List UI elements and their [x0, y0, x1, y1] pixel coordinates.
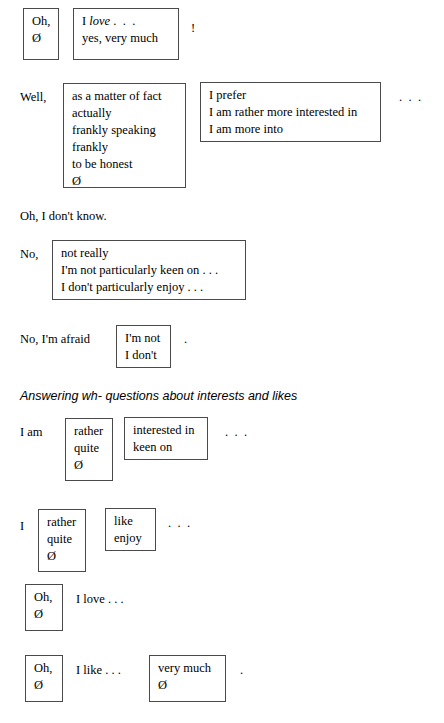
option-line: I prefer — [209, 87, 376, 104]
option-line: as a matter of fact — [72, 88, 181, 105]
option-line: I'm not particularly keen on . . . — [61, 262, 241, 279]
section-heading: Answering wh- questions about interests … — [20, 388, 297, 405]
option-box-very-much: very much Ø — [149, 655, 226, 702]
option-line: enjoy — [114, 530, 151, 547]
row-lead-no: No, — [20, 246, 38, 263]
option-line: frankly speaking — [72, 122, 181, 139]
italic-word: love — [89, 14, 110, 28]
trailing-ellipsis: . . . — [168, 515, 192, 532]
option-box-interested-in: interested in keen on — [124, 417, 208, 460]
option-line: rather — [47, 514, 81, 531]
option-line: Ø — [47, 548, 81, 565]
option-line: Ø — [158, 677, 221, 694]
row-lead-well: Well, — [20, 89, 46, 106]
plain-line-oh-i-dont-know: Oh, I don't know. — [20, 208, 107, 225]
option-box-oh: Oh, Ø — [25, 655, 63, 702]
option-line: I don't — [125, 347, 166, 364]
trailing-punctuation: . — [240, 662, 243, 679]
option-box-im-not: I'm not I don't — [116, 325, 171, 368]
option-box-oh: Oh, Ø — [23, 8, 59, 60]
option-line: Ø — [34, 677, 58, 694]
option-line: Oh, — [32, 13, 54, 30]
trailing-punctuation: ! — [191, 20, 195, 37]
mid-text-i-love: I love . . . — [76, 591, 124, 608]
option-box-i-love: I love . . . yes, very much — [73, 8, 179, 60]
option-line: I am rather more interested in — [209, 104, 376, 121]
option-line: quite — [47, 531, 81, 548]
option-line: Oh, — [34, 589, 58, 606]
option-line: Ø — [32, 30, 54, 47]
option-box-hedges: as a matter of fact actually frankly spe… — [63, 83, 186, 188]
option-line: interested in — [133, 422, 203, 439]
option-box-intensifier: rather quite Ø — [65, 418, 113, 481]
option-box-negative: not really I'm not particularly keen on … — [52, 240, 246, 300]
option-line: I don't particularly enjoy . . . — [61, 279, 241, 296]
row-lead-no-im-afraid: No, I'm afraid — [20, 331, 90, 348]
trailing-ellipsis: . . . — [399, 89, 423, 106]
option-box-oh: Oh, Ø — [25, 584, 63, 631]
option-line: Ø — [34, 606, 58, 623]
document-page: Oh, Ø I love . . . yes, very much ! Well… — [0, 0, 444, 723]
option-line: Ø — [72, 173, 181, 190]
option-line: to be honest — [72, 156, 181, 173]
option-line: quite — [74, 440, 108, 457]
option-line: I'm not — [125, 330, 166, 347]
option-line: Oh, — [34, 660, 58, 677]
option-line: very much — [158, 660, 221, 677]
option-line: frankly — [72, 139, 181, 156]
trailing-punctuation: . — [184, 331, 187, 348]
option-box-like-enjoy: like enjoy — [105, 508, 156, 551]
row-lead-i: I — [20, 518, 24, 535]
option-line: actually — [72, 105, 181, 122]
option-box-prefer: I prefer I am rather more interested in … — [200, 82, 381, 142]
option-line: not really — [61, 245, 241, 262]
option-line: yes, very much — [82, 30, 174, 47]
trailing-ellipsis: . . . — [225, 424, 249, 441]
option-line: Ø — [74, 457, 108, 474]
option-line: keen on — [133, 439, 203, 456]
row-lead-i-am: I am — [20, 424, 43, 441]
mid-text-i-like: I like . . . — [76, 662, 121, 679]
option-box-intensifier: rather quite Ø — [38, 509, 86, 572]
option-line: like — [114, 513, 151, 530]
option-line: I am more into — [209, 121, 376, 138]
option-line: rather — [74, 423, 108, 440]
option-line: I love . . . — [82, 13, 174, 30]
